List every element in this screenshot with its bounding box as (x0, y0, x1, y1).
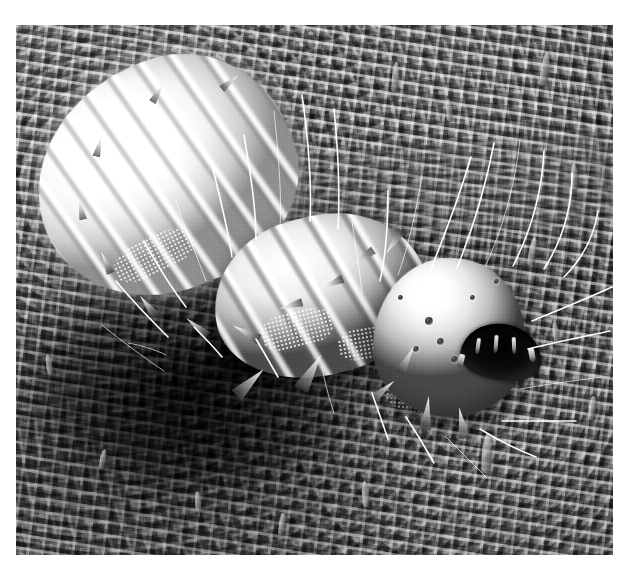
seta (544, 173, 572, 269)
seta (532, 287, 612, 321)
seta (528, 331, 610, 349)
seta (116, 281, 168, 337)
seta (274, 111, 281, 229)
seta (322, 367, 334, 413)
seta (430, 157, 471, 271)
seta (480, 429, 536, 457)
seta (212, 165, 232, 257)
seta (406, 417, 434, 463)
seta (372, 393, 388, 439)
seta (176, 201, 206, 281)
seta (352, 221, 362, 293)
micrograph-plate (16, 25, 613, 555)
micrograph-page (0, 0, 637, 576)
caterpillar-larva (16, 25, 613, 555)
seta (194, 327, 222, 357)
seta (564, 211, 598, 277)
seta (520, 377, 602, 389)
seta (446, 437, 486, 477)
seta (380, 191, 388, 281)
setae-layer (16, 25, 613, 555)
seta (102, 325, 164, 371)
seta (244, 135, 256, 239)
seta (144, 241, 186, 307)
seta (513, 151, 544, 266)
seta (256, 339, 278, 377)
seta (128, 343, 166, 355)
seta (302, 95, 311, 221)
seta (398, 175, 422, 275)
seta (334, 109, 339, 229)
seta (457, 143, 494, 268)
